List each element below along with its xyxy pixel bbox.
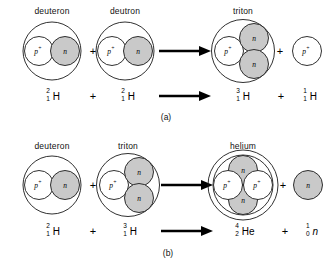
proton-circle bbox=[214, 171, 243, 200]
triton-glyph: p+ n n bbox=[208, 17, 278, 85]
reaction-arrow-a-pictorial bbox=[159, 45, 211, 57]
equation-a-product-1: 3 1 H bbox=[236, 90, 250, 103]
reaction-b: deuteron triton helium p+ n + p+ n bbox=[0, 133, 333, 267]
deuteron-glyph: p+ n bbox=[19, 20, 85, 82]
nucleus-triton-b: p+ n n bbox=[93, 151, 163, 219]
nucleus-free-neutron-b: n bbox=[292, 169, 324, 201]
neutron-label: n bbox=[136, 47, 140, 56]
nucleus-deuteron-a1: p+ n bbox=[19, 20, 85, 82]
isotope-notation: 2 1 bbox=[121, 90, 127, 103]
triton-glyph: p+ n n bbox=[93, 151, 163, 219]
nucleus-triton-a: p+ n n bbox=[208, 17, 278, 85]
equation-b-reactant-2: 3 1 H bbox=[123, 225, 137, 238]
plus-operator-a-products: + bbox=[277, 45, 283, 57]
figure-canvas: deuteron deutron triton p+ n + p+ n bbox=[0, 0, 333, 267]
neutron-label: n bbox=[241, 196, 245, 205]
plus-operator-b-equation-products: + bbox=[282, 225, 288, 237]
proton-circle bbox=[244, 171, 273, 200]
nucleus-deuteron-a2: p+ n bbox=[92, 20, 158, 82]
reaction-a: deuteron deutron triton p+ n + p+ n bbox=[0, 0, 333, 133]
species-label-deuteron-b: deuteron bbox=[34, 141, 69, 151]
proton-circle bbox=[25, 171, 54, 200]
nucleus-helium-b: n n p+ p+ bbox=[205, 147, 281, 223]
right-arrow-icon bbox=[161, 225, 213, 237]
plus-operator-a-equation-products: + bbox=[278, 90, 284, 102]
subfigure-caption-a: (a) bbox=[161, 112, 171, 122]
neutron-label: n bbox=[137, 194, 141, 203]
neutron-label: n bbox=[137, 168, 141, 177]
species-label-deutron-a2: deutron bbox=[110, 6, 140, 16]
equation-b-product-1: 4 2 He bbox=[235, 225, 254, 238]
species-label-triton-b: triton bbox=[118, 141, 138, 151]
equation-b-reactant-1: 2 1 H bbox=[46, 225, 60, 238]
free-neutron-glyph: n bbox=[292, 169, 324, 201]
proton-circle bbox=[215, 37, 244, 66]
isotope-notation: 3 1 bbox=[236, 90, 242, 103]
right-arrow-icon bbox=[159, 45, 211, 57]
free-proton-glyph: p+ bbox=[291, 35, 323, 67]
nucleus-deuteron-b: p+ n bbox=[19, 154, 85, 216]
right-arrow-icon bbox=[159, 90, 211, 102]
neutron-label: n bbox=[63, 47, 67, 56]
reaction-arrow-a-equation bbox=[159, 90, 211, 102]
reaction-arrow-b-equation bbox=[161, 225, 213, 237]
proton-circle bbox=[98, 37, 127, 66]
plus-operator-b-equation: + bbox=[90, 225, 96, 237]
deuteron-glyph: p+ n bbox=[92, 20, 158, 82]
equation-a-reactant-1: 2 1 H bbox=[46, 90, 60, 103]
plus-operator-b-products: + bbox=[280, 179, 286, 191]
equation-a-reactant-2: 2 1 H bbox=[121, 90, 135, 103]
isotope-notation: 4 2 bbox=[235, 225, 241, 238]
isotope-notation: 2 1 bbox=[46, 90, 52, 103]
nucleus-free-proton-a: p+ bbox=[291, 35, 323, 67]
equation-b-product-2: 1 0 n bbox=[306, 225, 318, 238]
isotope-notation: 2 1 bbox=[46, 225, 52, 238]
proton-circle bbox=[293, 37, 322, 66]
species-label-deuteron-a1: deuteron bbox=[34, 6, 69, 16]
neutron-label: n bbox=[252, 60, 256, 69]
proton-circle bbox=[100, 171, 129, 200]
deuteron-glyph: p+ n bbox=[19, 154, 85, 216]
isotope-notation: 3 1 bbox=[123, 225, 129, 238]
isotope-notation: 1 0 bbox=[306, 225, 312, 238]
neutron-label: n bbox=[63, 181, 67, 190]
plus-operator-a-equation: + bbox=[90, 90, 96, 102]
neutron-label: n bbox=[241, 166, 245, 175]
subfigure-caption-b: (b) bbox=[163, 248, 173, 258]
neutron-label: n bbox=[252, 34, 256, 43]
neutron-label: n bbox=[306, 181, 310, 190]
species-label-triton-a: triton bbox=[233, 6, 253, 16]
proton-circle bbox=[25, 37, 54, 66]
helium-glyph: n n p+ p+ bbox=[205, 147, 281, 223]
isotope-notation: 1 1 bbox=[303, 90, 309, 103]
equation-a-product-2: 1 1 H bbox=[303, 90, 317, 103]
